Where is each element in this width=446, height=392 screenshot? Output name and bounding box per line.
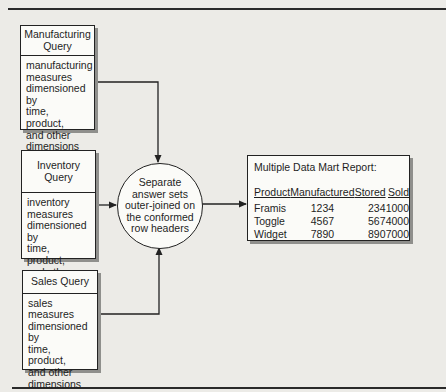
manufacturing-query-title: Manufacturing Query	[21, 26, 94, 56]
cell-manufactured: 4567	[290, 214, 354, 227]
cell-product: Widget	[254, 227, 290, 240]
manufacturing-query-box: Manufacturing Query manufacturing measur…	[20, 25, 95, 130]
cell-manufactured: 1234	[290, 201, 354, 214]
report-title: Multiple Data Mart Report:	[254, 161, 377, 173]
column-header-product: Product	[254, 186, 290, 201]
inventory-query-title: Inventory Query	[22, 151, 95, 193]
cell-manufactured: 7890	[290, 227, 354, 240]
table-row: Toggle 4567 567 4000	[254, 214, 409, 227]
arrow-manufacturing-to-merge	[95, 82, 158, 162]
cell-sold: 1000	[386, 201, 409, 214]
arrow-sales-to-merge	[98, 248, 159, 314]
column-header-stored: Stored	[355, 186, 386, 201]
sales-query-title: Sales Query	[23, 271, 97, 294]
inventory-query-box: Inventory Query inventory measures dimen…	[21, 150, 96, 259]
column-header-manufactured: Manufactured	[290, 186, 354, 201]
cell-stored: 234	[355, 201, 386, 214]
report-table: Product Manufactured Stored Sold Framis …	[254, 186, 409, 240]
column-header-sold: Sold	[386, 186, 409, 201]
sales-query-description: sales measures dimensioned by time, prod…	[23, 294, 97, 392]
cell-product: Framis	[254, 201, 290, 214]
manufacturing-query-description: manufacturing measures dimensioned by ti…	[21, 56, 94, 157]
merge-process-label: Separate answer sets outer-joined on the…	[125, 177, 195, 235]
merge-process-circle: Separate answer sets outer-joined on the…	[117, 163, 203, 249]
report-header-row: Product Manufactured Stored Sold	[254, 186, 409, 201]
cell-sold: 4000	[386, 214, 409, 227]
cell-product: Toggle	[254, 214, 290, 227]
table-row: Widget 7890 890 7000	[254, 227, 409, 240]
report-box: Multiple Data Mart Report: Product Manuf…	[247, 155, 410, 241]
cell-stored: 890	[355, 227, 386, 240]
cell-stored: 567	[355, 214, 386, 227]
table-row: Framis 1234 234 1000	[254, 201, 409, 214]
sales-query-box: Sales Query sales measures dimensioned b…	[22, 270, 98, 370]
cell-sold: 7000	[386, 227, 409, 240]
